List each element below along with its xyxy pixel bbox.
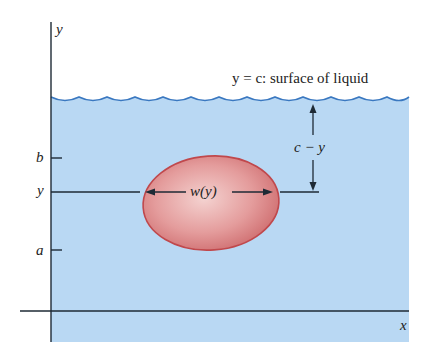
surface-label: y = c: surface of liquid [232, 71, 368, 86]
tick-label-b: b [36, 150, 44, 165]
tick-label-a: a [36, 243, 44, 258]
y-axis-label: y [56, 22, 63, 37]
width-label: w(y) [190, 184, 217, 199]
depth-label: c − y [294, 140, 325, 155]
tick-label-y: y [37, 183, 44, 198]
diagram-canvas [0, 0, 431, 360]
x-axis-label: x [400, 318, 407, 333]
